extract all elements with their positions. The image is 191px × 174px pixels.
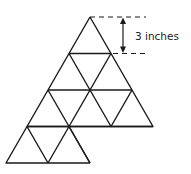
triangle-grid xyxy=(6,17,153,163)
triangle-figure: 3 inches xyxy=(0,0,191,174)
arrow-up-icon xyxy=(120,18,126,25)
arrow-down-icon xyxy=(120,47,126,54)
dimension-label: 3 inches xyxy=(135,30,179,42)
